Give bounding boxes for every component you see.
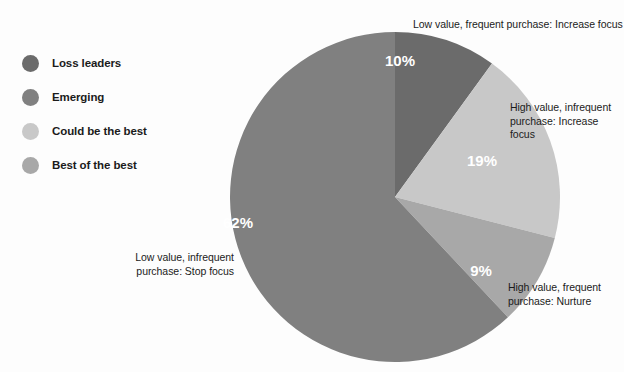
pie-chart: 10%19%9%62% [0,0,624,372]
chart-canvas: Loss leaders Emerging Could be the best … [0,0,624,372]
annotation-low-value-frequent-purchase: Low value, frequent purchase: Increase f… [413,18,623,32]
pie-slice-value-label: 10% [385,52,415,69]
annotation-high-value-frequent-purchase: High value, frequent purchase: Nurture [508,281,601,308]
pie-slice-group [230,32,560,362]
pie-slice-value-label: 19% [467,152,497,169]
pie-slice-value-label: 62% [223,214,253,231]
annotation-high-value-infrequent-purchase: High value, infrequent purchase: Increas… [510,101,624,142]
annotation-low-value-infrequent-purchase: Low value, infrequent purchase: Stop foc… [62,251,234,278]
pie-chart-svg: 10%19%9%62% [0,0,624,372]
pie-slice-value-label: 9% [470,262,492,279]
